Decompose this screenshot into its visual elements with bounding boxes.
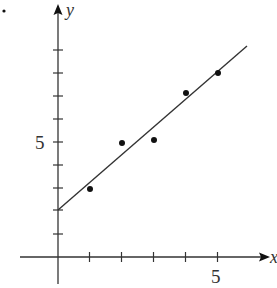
problem-marker-dot (2, 9, 5, 12)
scatter-plot: x y 5 5 (0, 0, 277, 288)
data-point (87, 186, 93, 192)
x-tick-label-5: 5 (211, 266, 221, 287)
data-point (215, 70, 221, 76)
y-tick-label-5: 5 (35, 132, 45, 153)
data-points (87, 70, 221, 192)
data-point (119, 140, 125, 146)
data-point (151, 137, 157, 143)
y-axis-label: y (64, 0, 74, 20)
x-axis-label: x (269, 247, 277, 267)
data-point (183, 90, 189, 96)
